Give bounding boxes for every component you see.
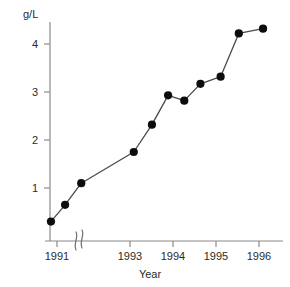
data-point	[148, 121, 156, 129]
x-axis-title: Year	[139, 268, 162, 280]
series-points-group	[47, 25, 267, 226]
x-axis-break-icon	[75, 230, 83, 250]
y-tick-label-4: 4	[32, 38, 38, 50]
chart-container: g/L 4 3 2 1	[0, 0, 290, 287]
data-point	[259, 25, 267, 33]
x-axis-tick-labels: 1991 1993 1994 1995 1996	[45, 250, 271, 262]
x-tick-label-1993: 1993	[118, 250, 142, 262]
series-line-g-per-l	[51, 29, 263, 222]
data-point	[164, 91, 172, 99]
x-tick-label-1991: 1991	[45, 250, 69, 262]
data-point	[77, 179, 85, 187]
y-axis-ticks	[44, 44, 50, 188]
data-point	[180, 97, 188, 105]
y-tick-label-1: 1	[32, 182, 38, 194]
y-axis-tick-labels: 4 3 2 1	[32, 38, 38, 194]
x-tick-label-1996: 1996	[247, 250, 271, 262]
data-point	[61, 201, 69, 209]
data-point	[47, 218, 55, 226]
x-axis-ticks	[57, 241, 259, 247]
data-point	[235, 29, 243, 37]
data-point	[130, 148, 138, 156]
x-tick-label-1994: 1994	[161, 250, 185, 262]
y-axis-unit-label: g/L	[23, 8, 38, 20]
line-chart: g/L 4 3 2 1	[0, 0, 290, 287]
y-tick-label-3: 3	[32, 86, 38, 98]
data-point	[217, 73, 225, 81]
y-tick-label-2: 2	[32, 134, 38, 146]
data-point	[196, 80, 204, 88]
x-tick-label-1995: 1995	[204, 250, 228, 262]
